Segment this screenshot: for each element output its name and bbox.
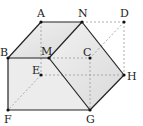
label-h: H: [127, 70, 137, 83]
label-b: B: [0, 46, 8, 59]
label-g: G: [86, 113, 95, 126]
label-e: E: [32, 64, 40, 77]
label-n: N: [78, 7, 88, 20]
label-d: D: [120, 7, 129, 20]
cube-diagram: A N D B M C E H F G: [0, 0, 143, 126]
label-m: M: [41, 45, 52, 58]
label-c: C: [83, 46, 91, 59]
label-a: A: [36, 7, 46, 20]
label-f: F: [4, 113, 12, 126]
